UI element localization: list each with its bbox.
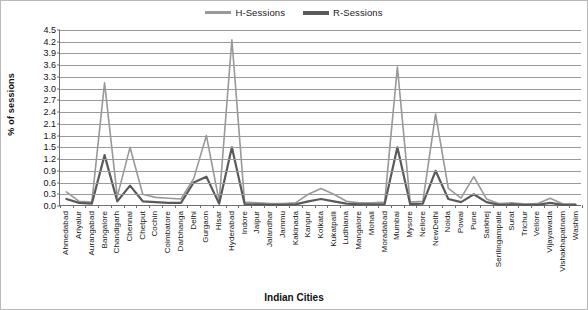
legend-label-r-sessions: R-Sessions bbox=[333, 7, 383, 18]
x-tick-mark bbox=[264, 205, 265, 208]
x-tick-mark bbox=[238, 205, 239, 208]
x-tick-label: Moradabad bbox=[380, 211, 389, 252]
x-tick-label: Trichur bbox=[520, 211, 529, 236]
x-tick-label: NewDelhi bbox=[431, 211, 440, 246]
x-tick-mark bbox=[429, 205, 430, 208]
x-tick-label: Bangalore bbox=[100, 211, 109, 248]
y-tick-label: 3.9 bbox=[43, 48, 56, 58]
x-tick-label: Chetput bbox=[138, 211, 147, 240]
x-tick-mark bbox=[416, 205, 417, 208]
x-tick-label: Vijayawada bbox=[545, 211, 554, 253]
x-tick-mark bbox=[315, 205, 316, 208]
chart-container: H-Sessions R-Sessions % of sessions 0.00… bbox=[0, 0, 588, 310]
y-tick-label: 1.2 bbox=[43, 154, 56, 164]
x-tick-label: Washim bbox=[571, 211, 580, 240]
x-tick-mark bbox=[544, 205, 545, 208]
x-tick-mark bbox=[149, 205, 150, 208]
x-tick-mark bbox=[289, 205, 290, 208]
x-tick-mark bbox=[200, 205, 201, 208]
y-tick-label: 3.0 bbox=[43, 84, 56, 94]
y-tick-mark bbox=[57, 112, 60, 113]
gridline bbox=[60, 53, 581, 54]
gridline bbox=[60, 42, 581, 43]
x-tick-mark bbox=[73, 205, 74, 208]
y-tick-mark bbox=[57, 65, 60, 66]
x-tick-label: Chennai bbox=[125, 211, 134, 242]
x-tick-mark bbox=[455, 205, 456, 208]
x-tick-label: Mumbai bbox=[392, 211, 401, 240]
x-tick-label: Coimbatore bbox=[163, 211, 172, 253]
x-tick-label: Kanpur bbox=[303, 211, 312, 237]
x-tick-mark bbox=[187, 205, 188, 208]
y-tick-mark bbox=[57, 123, 60, 124]
y-tick-mark bbox=[57, 182, 60, 183]
x-tick-mark bbox=[366, 205, 367, 208]
y-tick-label: 4.5 bbox=[43, 25, 56, 35]
x-tick-mark bbox=[162, 205, 163, 208]
y-tick-mark bbox=[57, 53, 60, 54]
x-tick-label: Ludhiana bbox=[341, 211, 350, 245]
x-tick-label: Surat bbox=[507, 211, 516, 231]
x-tick-mark bbox=[480, 205, 481, 208]
y-tick-mark bbox=[57, 170, 60, 171]
y-tick-mark bbox=[57, 159, 60, 160]
x-tick-mark bbox=[136, 205, 137, 208]
y-tick-label: 2.7 bbox=[43, 95, 56, 105]
legend-item-r-sessions[interactable]: R-Sessions bbox=[303, 7, 383, 18]
x-tick-label: Aurangabad bbox=[87, 211, 96, 256]
legend-item-h-sessions[interactable]: H-Sessions bbox=[205, 7, 285, 18]
gridline bbox=[60, 112, 581, 113]
y-tick-label: 2.4 bbox=[43, 107, 56, 117]
x-tick-label: Mysore bbox=[405, 211, 414, 238]
y-tick-label: 1.8 bbox=[43, 131, 56, 141]
x-tick-label: Darbhanga bbox=[176, 211, 185, 252]
x-tick-label: Sarkhej bbox=[482, 211, 491, 239]
x-tick-mark bbox=[391, 205, 392, 208]
plot-wrapper: 0.00.30.60.91.21.51.82.12.42.73.03.33.63… bbox=[59, 30, 581, 206]
gridline bbox=[60, 124, 581, 125]
x-tick-label: Kukatpalli bbox=[329, 211, 338, 247]
x-tick-mark bbox=[213, 205, 214, 208]
x-tick-mark bbox=[467, 205, 468, 208]
x-tick-mark bbox=[404, 205, 405, 208]
gridline bbox=[60, 77, 581, 78]
chart-legend: H-Sessions R-Sessions bbox=[1, 7, 587, 18]
x-tick-mark bbox=[226, 205, 227, 208]
plot-area: 0.00.30.60.91.21.51.82.12.42.73.03.33.63… bbox=[59, 30, 581, 206]
x-tick-mark bbox=[111, 205, 112, 208]
x-tick-label: Vishakhapatnam bbox=[558, 211, 567, 272]
y-tick-mark bbox=[57, 88, 60, 89]
gridline bbox=[60, 147, 581, 148]
gridline bbox=[60, 100, 581, 101]
gridline bbox=[60, 183, 581, 184]
x-tick-mark bbox=[276, 205, 277, 208]
x-tick-mark bbox=[327, 205, 328, 208]
gridline bbox=[60, 89, 581, 90]
y-tick-mark bbox=[57, 100, 60, 101]
x-tick-label: Cochin bbox=[150, 211, 159, 237]
x-tick-mark bbox=[60, 205, 61, 208]
legend-swatch-h-sessions bbox=[205, 11, 231, 14]
x-tick-label: Pune bbox=[469, 211, 478, 230]
series-line-r-sessions bbox=[66, 147, 575, 205]
x-tick-mark bbox=[442, 205, 443, 208]
y-tick-mark bbox=[57, 135, 60, 136]
y-tick-mark bbox=[57, 76, 60, 77]
x-tick-mark bbox=[353, 205, 354, 208]
x-tick-mark bbox=[531, 205, 532, 208]
x-tick-label: Jalandhar bbox=[265, 211, 274, 247]
x-tick-mark bbox=[302, 205, 303, 208]
x-tick-label: Kakinada bbox=[291, 211, 300, 245]
gridline bbox=[60, 136, 581, 137]
x-tick-label: Mangalore bbox=[354, 211, 363, 250]
y-tick-label: 0.3 bbox=[43, 189, 56, 199]
x-tick-label: Jammu bbox=[278, 211, 287, 238]
x-tick-label: Ahmedabad bbox=[61, 211, 70, 255]
gridline bbox=[60, 171, 581, 172]
y-tick-mark bbox=[57, 147, 60, 148]
y-tick-mark bbox=[57, 194, 60, 195]
x-tick-label: Powai bbox=[456, 211, 465, 233]
y-tick-label: 0.0 bbox=[43, 201, 56, 211]
x-tick-label: Ariyalur bbox=[74, 211, 83, 239]
x-tick-mark bbox=[518, 205, 519, 208]
